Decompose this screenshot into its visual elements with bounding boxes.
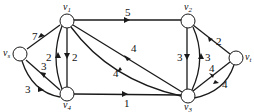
node-label-vs: vs [3,47,10,60]
weight-v3-vt: 4 [209,62,215,74]
node-label-v2: v2 [184,1,192,14]
weight-v1-v3: 4 [131,42,137,54]
node-label-vt: vt [245,51,252,64]
edge-v3-v1 [71,27,181,96]
node-v2 [181,14,195,28]
weight-v1-v4: 2 [72,51,78,63]
node-label-v4: v4 [63,99,71,112]
weight-v2-vt: 2 [216,35,222,47]
arrow-icon [198,53,204,59]
node-v1 [60,14,74,28]
arrow-icon [64,53,70,59]
weight-v3-v1: 4 [113,67,119,79]
weight-v4-v1: 2 [46,51,52,63]
arrow-icon [208,37,213,42]
node-label-v1: v1 [63,1,71,14]
weight-vt-v3: 4 [222,78,228,90]
weight-v2-v3: 3 [177,51,183,63]
weight-vs-v1: 7 [32,30,38,42]
arrow-icon [184,54,190,60]
arrow-icon [213,80,219,84]
weight-v1-v2: 5 [125,6,131,18]
flow-network-diagram: vs v1 v2 v3 v4 vt 7 3 3 2 2 5 4 4 1 3 3 … [0,0,254,112]
weight-v4-v3: 1 [124,97,130,109]
node-vs [13,47,27,61]
weight-vs-v4: 3 [25,83,31,95]
node-vt [229,51,243,65]
